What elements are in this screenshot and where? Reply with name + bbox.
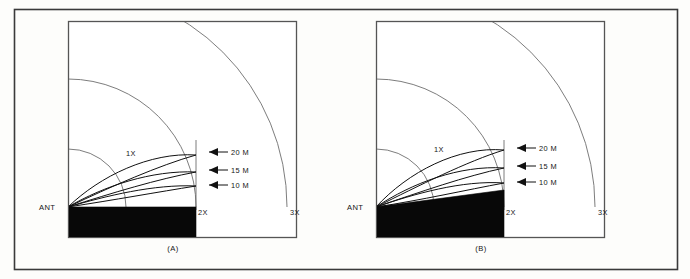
panel-b-label-15m: 15 M xyxy=(539,162,557,171)
panel-a-label-3x: 3X xyxy=(290,208,300,217)
panel-a-ground-flat xyxy=(68,207,196,237)
panel-a-label-20m: 20 M xyxy=(231,148,249,157)
panel-a-label-15m: 15 M xyxy=(231,166,249,175)
panel-a-label-ant: ANT xyxy=(39,203,55,212)
panel-b-label-ant: ANT xyxy=(347,203,363,212)
panel-b-label-2x: 2X xyxy=(506,208,516,217)
panel-a-caption: (A) xyxy=(167,244,178,253)
panel-b-label-1x: 1X xyxy=(434,145,444,154)
panel-a: 20 M 15 M 10 M 1X 2X 3X ANT (A) xyxy=(39,0,300,253)
panel-a-label-2x: 2X xyxy=(198,208,208,217)
panel-a-label-1x: 1X xyxy=(126,149,136,158)
figure-container: 20 M 15 M 10 M 1X 2X 3X ANT (A) xyxy=(0,0,690,279)
panel-a-label-10m: 10 M xyxy=(231,181,249,190)
panel-b-caption: (B) xyxy=(475,244,486,253)
panel-b-label-10m: 10 M xyxy=(539,178,557,187)
panel-b-label-3x: 3X xyxy=(598,208,608,217)
panel-b-label-20m: 20 M xyxy=(539,144,557,153)
panel-a-plot-box xyxy=(69,22,297,238)
panel-b: 20 M 15 M 10 M 1X 2X 3X ANT (B) xyxy=(347,0,608,253)
